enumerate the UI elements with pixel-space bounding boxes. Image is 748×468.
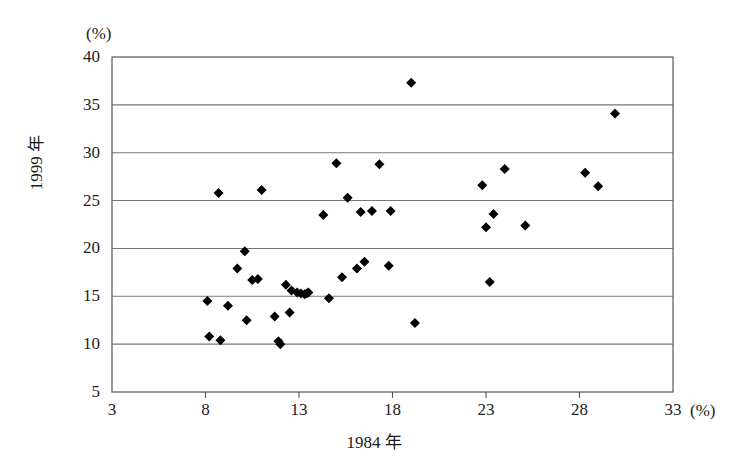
- x-axis-unit-label: (%): [690, 401, 715, 421]
- data-points-group: [202, 78, 620, 349]
- y-tick-label: 5: [60, 382, 100, 402]
- data-point: [386, 206, 396, 216]
- y-tick-label: 40: [60, 47, 100, 67]
- y-tick-label: 15: [60, 286, 100, 306]
- x-tick-label: 8: [201, 400, 210, 420]
- x-axis-ticks-group: [206, 392, 580, 398]
- data-point: [270, 311, 280, 321]
- y-tick-label: 30: [60, 143, 100, 163]
- data-point: [520, 220, 530, 230]
- x-tick-label: 18: [384, 400, 401, 420]
- x-tick-label: 13: [291, 400, 308, 420]
- y-tick-label: 35: [60, 95, 100, 115]
- scatter-plot-figure: (%) (%) 1984 年 1999 年 510152025303540 38…: [0, 0, 748, 468]
- data-point: [500, 164, 510, 174]
- data-point: [580, 168, 590, 178]
- data-point: [324, 293, 334, 303]
- data-point: [485, 277, 495, 287]
- data-point: [477, 180, 487, 190]
- data-point: [406, 78, 416, 88]
- y-tick-label: 25: [60, 191, 100, 211]
- data-point: [410, 318, 420, 328]
- y-axis-title: 1999 年: [22, 93, 47, 233]
- data-point: [204, 331, 214, 341]
- y-tick-label: 10: [60, 334, 100, 354]
- data-point: [331, 158, 341, 168]
- data-point: [610, 108, 620, 118]
- x-tick-label: 33: [665, 400, 682, 420]
- gridlines-group: [112, 105, 673, 344]
- data-point: [384, 261, 394, 271]
- data-point: [240, 246, 250, 256]
- data-point: [318, 210, 328, 220]
- data-point: [352, 264, 362, 274]
- data-point: [232, 264, 242, 274]
- plot-canvas: [0, 0, 748, 468]
- y-axis-unit-label: (%): [86, 24, 111, 44]
- data-point: [374, 159, 384, 169]
- data-point: [214, 188, 224, 198]
- x-tick-label: 23: [478, 400, 495, 420]
- data-point: [223, 301, 233, 311]
- x-axis-title: 1984 年: [0, 428, 748, 453]
- x-tick-label: 28: [571, 400, 588, 420]
- data-point: [367, 206, 377, 216]
- data-point: [488, 209, 498, 219]
- data-point: [202, 296, 212, 306]
- data-point: [593, 181, 603, 191]
- data-point: [257, 185, 267, 195]
- plot-frame: [112, 57, 673, 392]
- data-point: [285, 308, 295, 318]
- data-point: [356, 207, 366, 217]
- data-point: [359, 257, 369, 267]
- data-point: [343, 193, 353, 203]
- data-point: [337, 272, 347, 282]
- y-tick-label: 20: [60, 238, 100, 258]
- x-tick-label: 3: [108, 400, 117, 420]
- data-point: [242, 315, 252, 325]
- data-point: [481, 222, 491, 232]
